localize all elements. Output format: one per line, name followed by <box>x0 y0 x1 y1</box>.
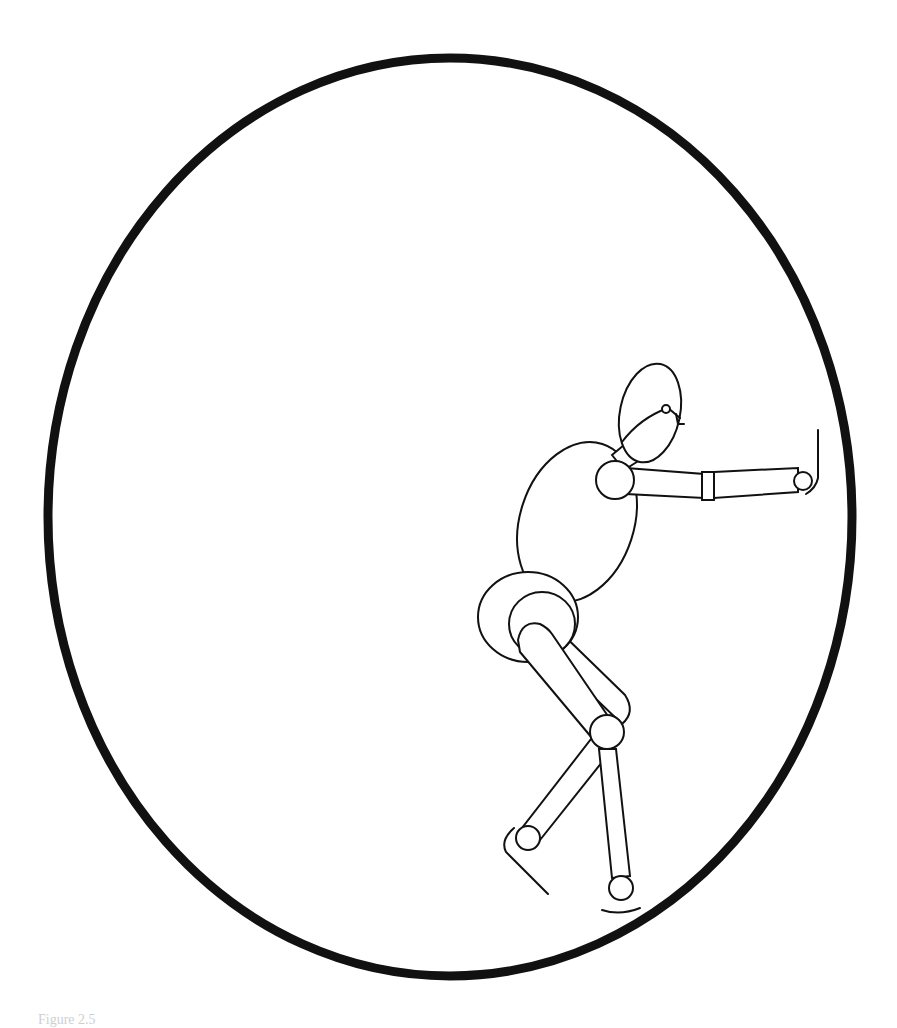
outer-circle <box>48 58 852 976</box>
figure-caption: Figure 2.5 <box>38 1012 96 1028</box>
front-shin <box>599 749 630 878</box>
mannequin-skater <box>478 358 818 913</box>
hand <box>794 472 812 490</box>
head-dot <box>662 405 670 413</box>
front-skate-blade <box>602 908 640 913</box>
forearm <box>714 468 798 498</box>
knee-joint <box>590 715 624 749</box>
shoulder-joint <box>596 461 634 499</box>
upper-arm <box>626 468 704 498</box>
front-ankle <box>609 876 633 900</box>
